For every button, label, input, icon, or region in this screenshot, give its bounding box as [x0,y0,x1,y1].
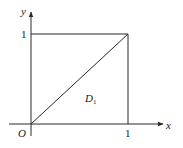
diagonal-line [31,34,128,124]
x-tick-label: 1 [125,128,131,139]
region-label-subscript: 1 [93,98,97,106]
origin-label: O [18,128,26,139]
region-label-main: D [85,92,93,104]
y-tick-label: 1 [21,29,27,40]
y-axis-label: y [21,6,26,17]
region-label: D1 [85,93,96,106]
x-axis-label: x [166,120,171,131]
diagram-canvas [0,0,183,148]
